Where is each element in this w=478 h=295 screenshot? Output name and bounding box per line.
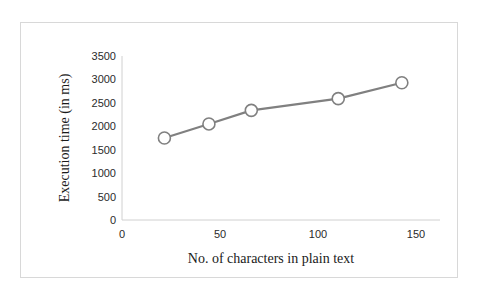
chart-frame: 3500 3000 2500 2000 1500 1000 500 0 0 50…	[20, 22, 458, 278]
data-point-2[interactable]	[245, 104, 257, 116]
y-tick-label-3000: 3000	[92, 73, 116, 85]
line-chart-plot[interactable]: 3500 3000 2500 2000 1500 1000 500 0 0 50…	[21, 23, 457, 277]
series-markers[interactable]	[158, 77, 407, 144]
y-tick-label-1500: 1500	[92, 144, 116, 156]
x-tick-label-150: 150	[407, 228, 425, 240]
y-axis-title: Execution time (in ms)	[57, 73, 73, 202]
x-tick-label-0: 0	[119, 228, 125, 240]
data-point-4[interactable]	[396, 77, 408, 89]
x-tick-label-50: 50	[214, 228, 226, 240]
y-tick-label-3500: 3500	[92, 50, 116, 62]
x-axis-title: No. of characters in plain text	[188, 251, 354, 266]
y-tick-label-500: 500	[98, 191, 116, 203]
y-tick-label-1000: 1000	[92, 167, 116, 179]
x-tick-label-100: 100	[309, 228, 327, 240]
series-line-execution-time[interactable]	[164, 83, 401, 138]
y-tick-label-0: 0	[110, 214, 116, 226]
y-tick-label-2000: 2000	[92, 120, 116, 132]
data-point-3[interactable]	[332, 93, 344, 105]
figure-canvas: 3500 3000 2500 2000 1500 1000 500 0 0 50…	[0, 0, 478, 295]
data-point-0[interactable]	[158, 132, 170, 144]
y-tick-label-2500: 2500	[92, 97, 116, 109]
data-point-1[interactable]	[203, 118, 215, 130]
